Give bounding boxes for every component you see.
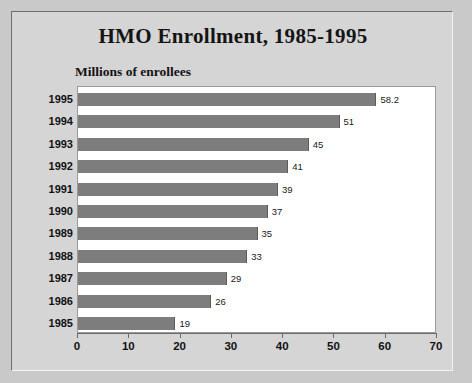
bar-row: 58.2	[78, 93, 399, 106]
bar-row: 39	[78, 183, 293, 196]
x-tick-label-20: 20	[173, 340, 186, 352]
y-tick-label-1986: 1986	[29, 295, 73, 307]
bar-value-label: 33	[251, 251, 262, 262]
bar-1985	[78, 317, 175, 330]
bar-1993	[78, 138, 309, 151]
bar-1990	[78, 205, 268, 218]
bar-value-label: 19	[179, 318, 190, 329]
bars-container: 58.251454139373533292619	[78, 87, 435, 332]
chart-title: HMO Enrollment, 1985-1995	[12, 24, 454, 49]
bar-value-label: 51	[344, 116, 355, 127]
bar-1991	[78, 183, 278, 196]
x-tick-label-40: 40	[276, 340, 289, 352]
bar-row: 41	[78, 160, 303, 173]
x-axis-line	[77, 333, 436, 334]
x-tick-60	[385, 333, 386, 338]
bar-row: 29	[78, 272, 241, 285]
x-tick-label-0: 0	[74, 340, 80, 352]
y-tick-label-1994: 1994	[29, 115, 73, 127]
bar-row: 35	[78, 227, 272, 240]
y-tick-label-1991: 1991	[29, 183, 73, 195]
plot-area: 58.251454139373533292619	[77, 86, 436, 333]
x-tick-70	[436, 333, 437, 338]
bar-value-label: 35	[262, 228, 273, 239]
x-tick-label-60: 60	[378, 340, 391, 352]
bar-1988	[78, 250, 247, 263]
chart-card: HMO Enrollment, 1985-1995 Millions of en…	[11, 11, 453, 371]
bar-value-label: 39	[282, 184, 293, 195]
y-tick-label-1992: 1992	[29, 160, 73, 172]
y-tick-label-1987: 1987	[29, 272, 73, 284]
x-tick-label-50: 50	[327, 340, 340, 352]
bar-value-label: 29	[231, 273, 242, 284]
bar-1992	[78, 160, 288, 173]
bar-1987	[78, 272, 227, 285]
x-tick-label-30: 30	[224, 340, 237, 352]
bar-value-label: 37	[272, 206, 283, 217]
bar-row: 45	[78, 138, 323, 151]
x-tick-label-10: 10	[122, 340, 135, 352]
x-tick-30	[231, 333, 232, 338]
bar-row: 37	[78, 205, 282, 218]
bar-row: 51	[78, 115, 354, 128]
bar-1986	[78, 295, 211, 308]
x-tick-40	[282, 333, 283, 338]
y-tick-label-1989: 1989	[29, 227, 73, 239]
y-axis-title: Millions of enrollees	[75, 64, 191, 80]
y-tick-label-1990: 1990	[29, 205, 73, 217]
x-tick-label-70: 70	[430, 340, 443, 352]
bar-1994	[78, 115, 340, 128]
bar-row: 33	[78, 250, 262, 263]
y-tick-label-1988: 1988	[29, 250, 73, 262]
chart-figure: HMO Enrollment, 1985-1995 Millions of en…	[0, 0, 472, 383]
x-tick-50	[333, 333, 334, 338]
bar-row: 19	[78, 317, 190, 330]
y-tick-label-1985: 1985	[29, 317, 73, 329]
y-tick-label-1993: 1993	[29, 138, 73, 150]
bar-row: 26	[78, 295, 226, 308]
bar-1989	[78, 227, 258, 240]
bar-value-label: 45	[313, 139, 324, 150]
bar-value-label: 41	[292, 161, 303, 172]
y-tick-label-1995: 1995	[29, 93, 73, 105]
x-tick-10	[128, 333, 129, 338]
x-tick-20	[180, 333, 181, 338]
bar-value-label: 26	[215, 296, 226, 307]
bar-1995	[78, 93, 376, 106]
bar-value-label: 58.2	[380, 94, 399, 105]
x-tick-0	[77, 333, 78, 338]
